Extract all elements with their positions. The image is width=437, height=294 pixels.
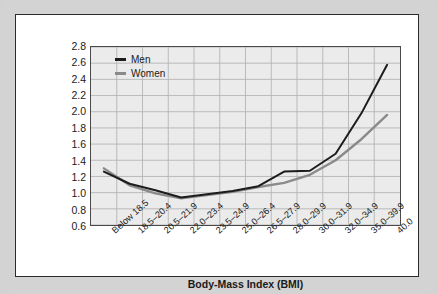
legend: Men Women [115, 53, 165, 81]
legend-item-women: Women [115, 67, 165, 80]
y-axis-tick-label: 2.2 [56, 90, 86, 100]
legend-swatch-women [115, 72, 126, 75]
x-axis-tick-label: 26.5–27.9 [265, 228, 272, 235]
x-axis-tick-label: 35.0–39.9 [369, 228, 376, 235]
x-axis-tick-label: 18.5–20.4 [136, 228, 143, 235]
y-axis-tick-labels: 2.82.62.42.22.01.81.61.41.21.00.80.6 [54, 46, 86, 226]
y-axis-tick-label: 2.8 [56, 41, 86, 51]
x-axis-tick-label: 25.0–26.4 [240, 228, 247, 235]
y-axis-tick-label: 1.2 [56, 172, 86, 182]
x-axis-tick-label: 22.0–23.4 [188, 228, 195, 235]
x-axis-tick-label: Below 18.5 [110, 228, 117, 235]
x-axis-tick-labels: Below 18.518.5–20.420.5–21.922.0–23.423.… [90, 228, 401, 280]
y-axis-tick-label: 2.0 [56, 106, 86, 116]
y-axis-title: Relative Risk of Death [7, 0, 25, 29]
legend-swatch-men [115, 58, 126, 61]
y-axis-tick-label: 2.4 [56, 74, 86, 84]
figure-panel: Relative Risk of Death 2.82.62.42.22.01.… [15, 14, 419, 277]
y-axis-tick-label: 0.6 [56, 221, 86, 231]
y-axis-tick-label: 2.6 [56, 57, 86, 67]
plot-area: Men Women [90, 46, 401, 226]
legend-label-women: Women [131, 67, 165, 80]
legend-label-men: Men [131, 53, 150, 66]
x-axis-tick-label: 23.5–24.9 [214, 228, 221, 235]
y-axis-tick-label: 1.4 [56, 156, 86, 166]
figure-outer-frame: Relative Risk of Death 2.82.62.42.22.01.… [0, 0, 437, 294]
x-axis-tick-label: 20.5–21.9 [162, 228, 169, 235]
y-axis-tick-label: 1.0 [56, 188, 86, 198]
x-axis-tick-label: 32.0–34.9 [343, 228, 350, 235]
x-axis-tick-label: 28.0–29.9 [291, 228, 298, 235]
x-axis-title: Body-Mass Index (BMI) [90, 278, 401, 290]
x-axis-tick-label: 40.0 [395, 228, 402, 235]
legend-item-men: Men [115, 53, 165, 66]
y-axis-tick-label: 1.8 [56, 123, 86, 133]
y-axis-tick-label: 1.6 [56, 139, 86, 149]
x-axis-tick-label: 30.0–31.9 [317, 228, 324, 235]
y-axis-tick-label: 0.8 [56, 205, 86, 215]
